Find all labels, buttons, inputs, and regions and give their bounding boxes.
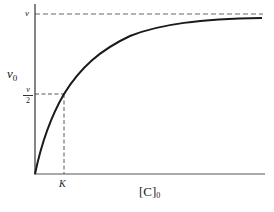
- vmax-tick-label: v: [25, 9, 29, 18]
- half-v-tick-label: v 2: [23, 86, 33, 105]
- half-v-numerator: v: [23, 86, 33, 96]
- saturation-curve: [35, 18, 262, 174]
- y-axis-label-subscript: 0: [13, 73, 18, 83]
- x-axis-label-text: [C]: [139, 184, 156, 199]
- x-axis-label: [C]0: [139, 185, 160, 200]
- k-tick-label: K: [59, 179, 66, 189]
- y-axis-label: v0: [7, 67, 17, 83]
- saturation-chart: [0, 0, 274, 212]
- x-axis-label-subscript: 0: [156, 191, 160, 200]
- half-v-denominator: 2: [23, 96, 33, 105]
